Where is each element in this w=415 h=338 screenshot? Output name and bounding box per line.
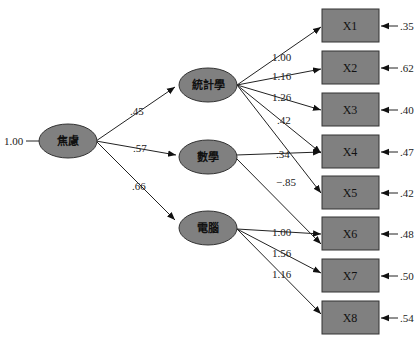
path-label-x7: 1.56 xyxy=(272,247,292,259)
path-label-x4a: .42 xyxy=(277,114,291,126)
variance-label: 1.00 xyxy=(4,135,24,147)
indicator-x6: X6 .48 xyxy=(322,217,414,250)
path-label-x2: 1.16 xyxy=(272,70,292,82)
indicator-label-x5: X5 xyxy=(343,186,358,200)
loading-label-statistics: .45 xyxy=(130,105,144,117)
node-label-anxiety: 焦慮 xyxy=(56,134,79,148)
indicator-x3: X3 .40 xyxy=(322,93,414,126)
indicator-label-x3: X3 xyxy=(343,103,358,117)
indicator-label-x1: X1 xyxy=(343,19,358,33)
indicator-x4: X4 .47 xyxy=(322,135,414,168)
node-computer: 電腦 xyxy=(179,211,237,245)
path-label-x6: 1.00 xyxy=(272,226,292,238)
path-label-x1: 1.00 xyxy=(272,51,292,63)
loading-label-math: .57 xyxy=(133,142,147,154)
loading-label-computer: .66 xyxy=(132,180,146,192)
indicator-label-x7: X7 xyxy=(343,269,358,283)
indicator-x8: X8 .54 xyxy=(322,301,414,334)
indicator-label-x2: X2 xyxy=(343,61,358,75)
indicator-x2: X2 .62 xyxy=(322,51,414,84)
error-label-x1: .35 xyxy=(400,20,414,32)
path-label-x3: 1.26 xyxy=(272,91,292,103)
path-label-x8: 1.16 xyxy=(272,268,292,280)
path-label-x5: −.85 xyxy=(276,176,296,188)
sem-diagram: 1.00 .45 .57 .66 1.00 1.16 1.26 .42 −.85… xyxy=(0,0,415,338)
indicator-x1: X1 .35 xyxy=(322,9,414,42)
indicator-x5: X5 .42 xyxy=(322,176,414,209)
error-label-x4: .47 xyxy=(400,146,414,158)
indicator-label-x8: X8 xyxy=(343,311,358,325)
indicator-label-x4: X4 xyxy=(343,145,358,159)
node-label-statistics: 統計學 xyxy=(192,78,225,92)
node-label-math: 數學 xyxy=(197,150,219,164)
error-label-x6: .48 xyxy=(400,228,414,240)
node-anxiety: 焦慮 xyxy=(39,124,97,158)
indicator-x7: X7 .50 xyxy=(322,259,414,292)
error-label-x3: .40 xyxy=(400,104,414,116)
error-label-x5: .42 xyxy=(400,187,414,199)
node-statistics: 統計學 xyxy=(179,68,237,102)
error-label-x2: .62 xyxy=(400,62,414,74)
path-label-x4b: .34 xyxy=(276,148,290,160)
node-math: 數學 xyxy=(179,140,237,174)
indicator-label-x6: X6 xyxy=(343,227,358,241)
error-label-x8: .54 xyxy=(400,312,414,324)
error-label-x7: .50 xyxy=(400,270,414,282)
node-label-computer: 電腦 xyxy=(197,221,219,235)
